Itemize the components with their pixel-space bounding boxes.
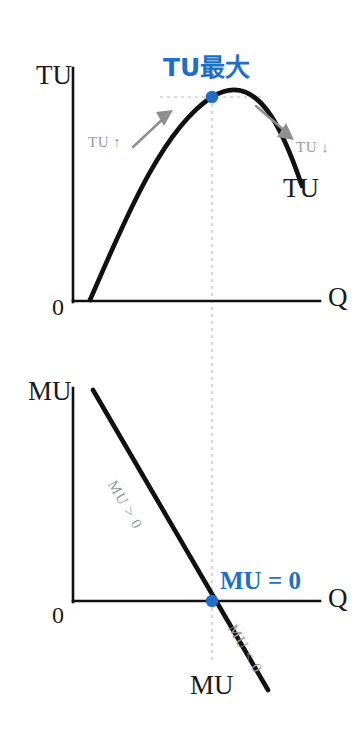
mu-zero-label: MU = 0 [220, 568, 301, 593]
diagram-canvas [0, 0, 364, 739]
utility-diagram: TU Q 0 TU最大 TU ↑ TU ↓ TU MU Q 0 MU = 0 M… [0, 0, 364, 739]
tu-max-point-marker [206, 91, 218, 103]
total-utility-curve [90, 90, 302, 300]
top-chart-y-axis-label: TU [36, 62, 72, 89]
mu-curve-label: MU [190, 672, 234, 699]
bottom-chart-x-axis-label: Q [328, 585, 348, 612]
tu-max-label: TU最大 [163, 55, 250, 80]
bottom-chart-origin-label: 0 [52, 603, 64, 627]
mu-zero-point-marker [206, 595, 218, 607]
tu-curve-label: TU [283, 175, 319, 202]
tu-falling-arrow-icon [256, 106, 294, 140]
top-chart-origin-label: 0 [52, 295, 64, 319]
top-chart-x-axis-label: Q [328, 284, 348, 311]
bottom-chart-y-axis-label: MU [28, 378, 72, 405]
tu-increasing-note: TU ↑ [88, 135, 121, 150]
tu-decreasing-note: TU ↓ [296, 140, 329, 155]
